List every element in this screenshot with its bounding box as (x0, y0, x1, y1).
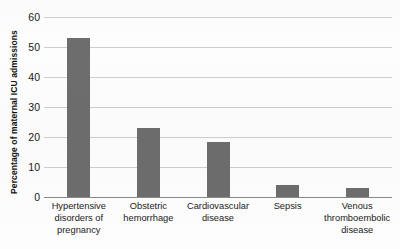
y-axis-tick-label: 10 (28, 161, 40, 173)
bar-chart: Percentage of maternal ICU admissions 60… (0, 0, 400, 249)
x-axis-category-label: Cardiovasculardisease (183, 200, 253, 224)
x-axis-category-line: Venous (322, 200, 392, 212)
bar (346, 188, 369, 197)
x-axis-category-label: Hypertensivedisorders ofpregnancy (44, 200, 114, 237)
x-axis-category-line: Cardiovascular (183, 200, 253, 212)
x-axis-category-line: pregnancy (44, 224, 114, 236)
y-axis-tick-label: 0 (34, 191, 40, 203)
y-axis-tick-label: 30 (28, 101, 40, 113)
x-axis-category-label: Obstetrichemorrhage (114, 200, 184, 224)
gridline: 50 (44, 47, 392, 48)
y-axis-tick-label: 40 (28, 71, 40, 83)
y-axis-title: Percentage of maternal ICU admissions (9, 12, 19, 212)
bar (137, 128, 160, 197)
y-axis-tick-label: 20 (28, 131, 40, 143)
x-axis-category-label: Venousthromboembolicdisease (322, 200, 392, 237)
gridline: 40 (44, 77, 392, 78)
x-axis-labels: Hypertensivedisorders ofpregnancyObstetr… (44, 200, 392, 249)
x-axis-category-line: Obstetric (114, 200, 184, 212)
x-axis-line: 0 (44, 197, 392, 198)
gridline: 20 (44, 137, 392, 138)
y-axis-tick-label: 50 (28, 41, 40, 53)
x-axis-category-line: disease (183, 212, 253, 224)
x-axis-category-line: disease (322, 224, 392, 236)
x-axis-category-line: hemorrhage (114, 212, 184, 224)
bar (67, 38, 90, 197)
bar (276, 185, 299, 197)
y-axis-tick-label: 60 (28, 11, 40, 23)
plot-area: 6050403020100 (44, 17, 392, 197)
bar (207, 142, 230, 198)
x-axis-category-label: Sepsis (253, 200, 323, 212)
x-axis-category-line: thromboembolic (322, 212, 392, 224)
x-axis-category-line: disorders of (44, 212, 114, 224)
gridline: 30 (44, 107, 392, 108)
gridline: 60 (44, 17, 392, 18)
x-axis-category-line: Hypertensive (44, 200, 114, 212)
x-axis-category-line: Sepsis (253, 200, 323, 212)
